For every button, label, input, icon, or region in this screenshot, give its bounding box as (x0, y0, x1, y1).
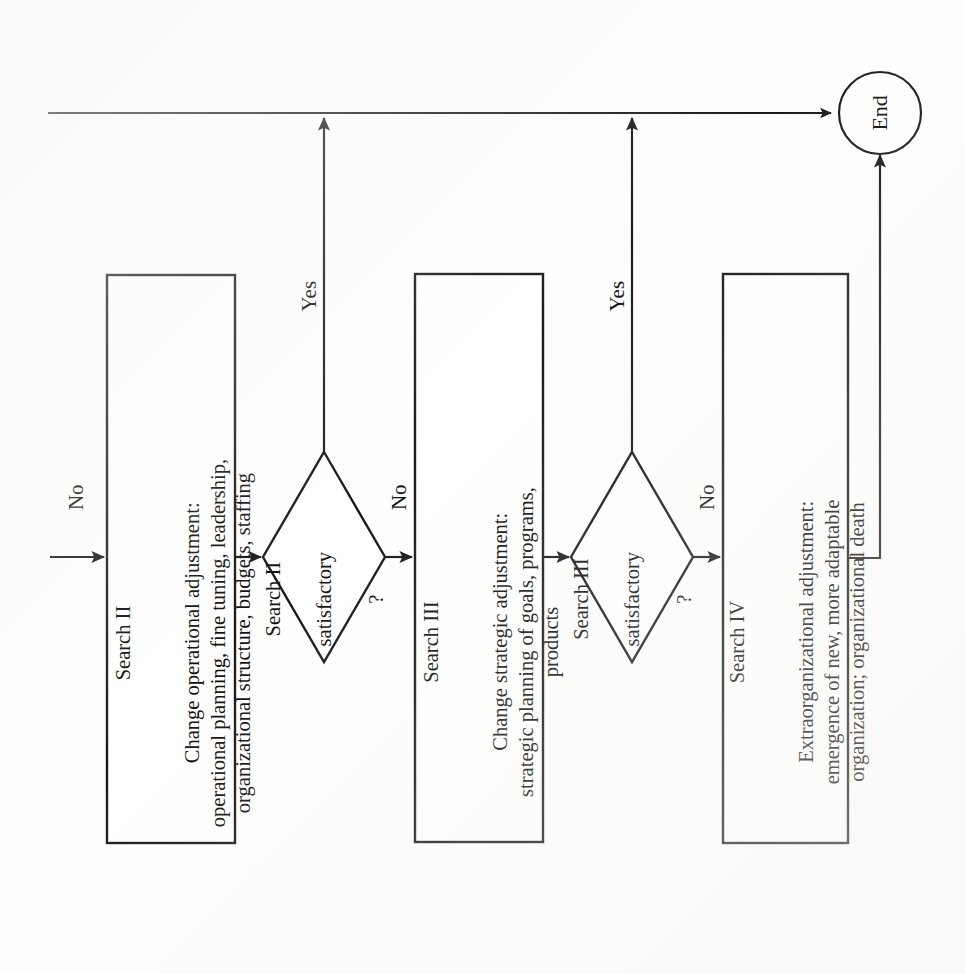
edge-search4-to-end (848, 155, 880, 558)
flowchart-canvas (0, 0, 965, 974)
flowchart-page: Search II Change operational adjustment:… (0, 0, 965, 974)
node-search4-box (723, 274, 848, 843)
node-end-circle (839, 72, 921, 154)
node-decision3-diamond (571, 452, 693, 662)
node-decision2-diamond (263, 452, 385, 662)
node-search3-box (415, 274, 543, 842)
node-search2-box (107, 275, 235, 843)
